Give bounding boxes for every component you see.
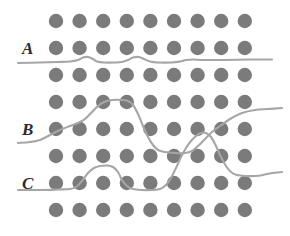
lattice-dot xyxy=(120,122,134,136)
figure-container: A B C xyxy=(0,0,290,236)
lattice-dot xyxy=(49,176,63,190)
lattice-dot xyxy=(120,41,134,55)
row-label-c: C xyxy=(22,175,33,192)
lattice-dot xyxy=(167,14,181,28)
trajectory-curve-a xyxy=(18,57,272,63)
lattice-dot xyxy=(190,41,204,55)
lattice-dot xyxy=(72,149,86,163)
lattice-dot xyxy=(190,176,204,190)
lattice-dot xyxy=(49,41,63,55)
lattice-dot xyxy=(96,149,110,163)
dot-row-1 xyxy=(49,14,252,28)
lattice-dot xyxy=(143,176,157,190)
lattice-dot xyxy=(143,95,157,109)
dot-lattice xyxy=(49,14,252,217)
row-label-b: B xyxy=(22,121,33,138)
lattice-dot xyxy=(214,14,228,28)
lattice-dot xyxy=(96,203,110,217)
lattice-dot xyxy=(120,68,134,82)
lattice-dot xyxy=(72,68,86,82)
lattice-dot xyxy=(143,203,157,217)
lattice-dot xyxy=(120,203,134,217)
lattice-dot xyxy=(167,122,181,136)
lattice-and-curves-svg xyxy=(0,0,290,236)
lattice-dot xyxy=(238,149,252,163)
lattice-dot xyxy=(214,203,228,217)
lattice-dot xyxy=(190,95,204,109)
lattice-dot xyxy=(238,68,252,82)
lattice-dot xyxy=(167,68,181,82)
lattice-dot xyxy=(72,41,86,55)
lattice-dot xyxy=(167,95,181,109)
lattice-dot xyxy=(49,14,63,28)
dot-row-3 xyxy=(49,68,252,82)
lattice-dot xyxy=(143,149,157,163)
lattice-dot xyxy=(120,95,134,109)
lattice-dot xyxy=(143,68,157,82)
lattice-dot xyxy=(214,95,228,109)
lattice-dot xyxy=(143,14,157,28)
dot-row-2 xyxy=(49,41,252,55)
lattice-dot xyxy=(238,176,252,190)
lattice-dot xyxy=(190,68,204,82)
lattice-dot xyxy=(49,95,63,109)
lattice-dot xyxy=(49,68,63,82)
lattice-dot xyxy=(49,149,63,163)
lattice-dot xyxy=(167,41,181,55)
lattice-dot xyxy=(96,14,110,28)
lattice-dot xyxy=(238,41,252,55)
lattice-dot xyxy=(96,68,110,82)
lattice-dot xyxy=(72,14,86,28)
lattice-dot xyxy=(96,176,110,190)
lattice-dot xyxy=(143,41,157,55)
lattice-dot xyxy=(120,14,134,28)
lattice-dot xyxy=(96,122,110,136)
lattice-dot xyxy=(96,41,110,55)
lattice-dot xyxy=(190,14,204,28)
dot-row-8 xyxy=(49,203,252,217)
lattice-dot xyxy=(214,68,228,82)
lattice-dot xyxy=(238,203,252,217)
lattice-dot xyxy=(190,203,204,217)
lattice-dot xyxy=(238,14,252,28)
lattice-dot xyxy=(72,95,86,109)
row-label-a: A xyxy=(22,40,33,57)
lattice-dot xyxy=(238,122,252,136)
lattice-dot xyxy=(214,176,228,190)
lattice-dot xyxy=(167,203,181,217)
lattice-dot xyxy=(72,203,86,217)
lattice-dot xyxy=(214,41,228,55)
dot-row-4 xyxy=(49,95,252,109)
lattice-dot xyxy=(120,149,134,163)
lattice-dot xyxy=(49,203,63,217)
lattice-dot xyxy=(238,95,252,109)
